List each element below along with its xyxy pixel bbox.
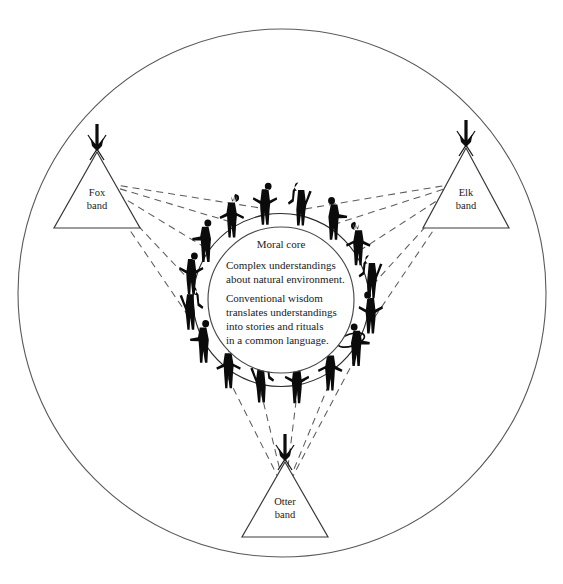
- moral-core-line-4: translates understandings: [226, 306, 337, 318]
- moral-core-line-6: in a common language.: [226, 334, 329, 346]
- band-label-line1: Otter: [274, 496, 296, 507]
- moral-core-line-1: Complex understandings: [226, 259, 336, 271]
- band-label-line2: band: [456, 200, 477, 211]
- band-label-line1: Elk: [459, 187, 474, 198]
- band-label-line2: band: [275, 509, 296, 520]
- moral-core-line-3: Conventional wisdom: [226, 292, 323, 304]
- moral-core-diagram: Moral core Complex understandings about …: [0, 0, 563, 584]
- moral-core-line-2: about natural environment.: [226, 273, 345, 285]
- band-label-line1: Fox: [89, 187, 106, 198]
- moral-core-title: Moral core: [257, 238, 306, 250]
- band-label-line2: band: [87, 200, 108, 211]
- diagram-root: Moral core Complex understandings about …: [0, 0, 563, 584]
- moral-core-line-5: into stories and rituals: [226, 320, 323, 332]
